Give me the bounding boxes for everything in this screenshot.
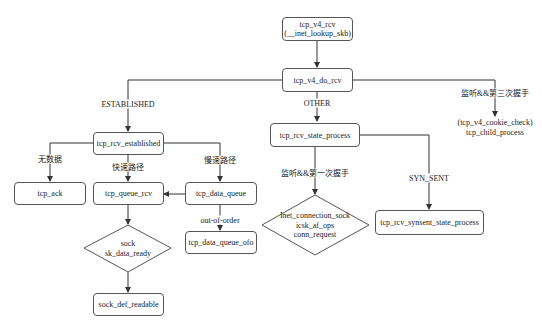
diamond-line: Inet_connection_sock [280, 211, 350, 221]
node-tcp-data-queue: tcp_data_queue [185, 182, 257, 205]
node-text: tcp_v4_rcv [300, 20, 336, 29]
edge-label-fast-path: 快速路径 [111, 163, 145, 172]
edge-label-out-of-order: out-of-order [199, 216, 240, 225]
diamond-line: icsk_af_ops [280, 220, 350, 230]
node-text: (__inet_lookup_skb) [284, 29, 351, 38]
sock-decision-text: sock sk_data_ready [105, 239, 151, 258]
node-tcp-queue-rcv: tcp_queue_rcv [93, 182, 164, 205]
node-tcp-rcv-state-process: tcp_rcv_state_process [270, 123, 360, 147]
edge-label-listen-third: 监听&&第三次握手 [460, 89, 530, 98]
node-tcp-ack: tcp_ack [14, 182, 86, 205]
edge-label-established: ESTABLISHED [100, 100, 155, 109]
node-tcp-v4-rcv: tcp_v4_rcv (__inet_lookup_skb) [282, 17, 353, 41]
edge-label-syn-sent: SYN_SENT [408, 174, 450, 183]
edge-label-no-data: 无数据 [37, 155, 63, 164]
node-text: (tcp_v4_cookie_check) [457, 118, 532, 128]
edge-label-listen-first: 监听&&第一次握手 [280, 169, 350, 178]
diamond-line: sock [105, 239, 151, 249]
node-tcp-data-queue-ofo: tcp_data_queue_ofo [185, 231, 257, 254]
diamond-line: conn_request [280, 230, 350, 240]
edge-label-slow-path: 慢速路径 [203, 156, 237, 165]
node-cookie-check: (tcp_v4_cookie_check) tcp_child_process [457, 118, 532, 138]
edges [0, 0, 542, 329]
tcp-receive-flowchart: tcp_v4_rcv (__inet_lookup_skb) tcp_v4_do… [0, 0, 542, 329]
inet-decision-text: Inet_connection_sock icsk_af_ops conn_re… [280, 211, 350, 240]
node-tcp-rcv-established: tcp_rcv_established [93, 132, 164, 155]
node-tcp-v4-do-rcv: tcp_v4_do_rcv [282, 68, 353, 92]
diamond-line: sk_data_ready [105, 248, 151, 258]
node-sock-def-readable: sock_def_readable [93, 293, 164, 316]
node-text: tcp_child_process [457, 128, 532, 138]
node-tcp-rcv-synsent-state-process: tcp_rcv_synsent_state_process [375, 210, 484, 235]
edge-label-other: OTHER [303, 99, 332, 108]
